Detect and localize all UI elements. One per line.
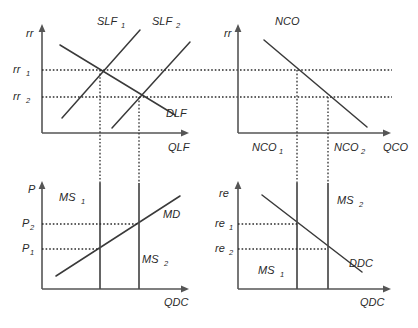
panel1-y-axis-label: rr xyxy=(26,27,35,39)
panel4-x-axis-label: QDC xyxy=(360,296,385,308)
curve-md xyxy=(56,196,180,276)
panel1-rr2-sub: 2 xyxy=(25,96,31,105)
curve-nco xyxy=(264,40,367,127)
curve-label-ms1-p4: MS xyxy=(258,264,275,276)
panel3-x-axis-arrow xyxy=(181,286,189,293)
curve-label-ms1-p3: MS xyxy=(59,191,76,203)
economics-four-panel-figure: rr rr 1 rr 2 SLF 1 SLF 2 DLF QLF rr xyxy=(0,0,418,328)
panel2-y-axis-label: rr xyxy=(224,27,233,39)
panel4-y-axis-arrow xyxy=(235,181,242,189)
panel2-nco2-sub: 2 xyxy=(360,147,366,156)
curve-label-slf1-sub: 1 xyxy=(121,21,125,30)
panel2-nco1-sub: 1 xyxy=(279,147,283,156)
panel4-y-axis-label: re xyxy=(219,187,229,199)
curve-label-ddc: DDC xyxy=(349,257,373,269)
curve-label-slf1: SLF xyxy=(97,15,118,27)
panel2-nco1-label: NCO xyxy=(252,141,277,153)
curve-ddc xyxy=(262,195,362,272)
panel2-nco2-label: NCO xyxy=(334,141,359,153)
panel1-y-axis-arrow xyxy=(39,24,46,32)
curve-label-ms2-p3: MS xyxy=(142,253,159,265)
panel-foreign-exchange-market: re re 1 re 2 MS 1 MS 2 DDC QDC xyxy=(215,181,391,308)
panel3-p2-label: P xyxy=(22,217,30,229)
panel1-rr1-sub: 1 xyxy=(26,69,30,78)
panel3-p1-label: P xyxy=(22,242,30,254)
figure-canvas: rr rr 1 rr 2 SLF 1 SLF 2 DLF QLF rr xyxy=(0,0,418,328)
curve-label-ms1-p4-sub: 1 xyxy=(280,270,284,279)
panel4-x-axis-arrow xyxy=(383,286,391,293)
curve-label-ms2-p4-sub: 2 xyxy=(358,200,364,209)
panel2-x-axis-label: QCO xyxy=(383,141,409,153)
panel3-p2-sub: 2 xyxy=(29,223,35,232)
curve-label-ms2-p4: MS xyxy=(337,194,354,206)
panel1-x-axis-label: QLF xyxy=(168,141,191,153)
panel-net-capital-outflow: rr NCO NCO 1 NCO 2 QCO xyxy=(224,15,409,183)
panel3-y-axis-arrow xyxy=(39,181,46,189)
curve-label-nco: NCO xyxy=(275,15,300,27)
panel4-re2-sub: 2 xyxy=(228,248,234,257)
curve-label-slf2-sub: 2 xyxy=(175,21,181,30)
panel4-re1-label: re xyxy=(215,217,225,229)
panel1-rr2-label: rr xyxy=(13,90,22,102)
curve-label-dlf: DLF xyxy=(166,107,188,119)
curve-label-md: MD xyxy=(163,208,180,220)
panel-domestic-goods-market: P P 2 P 1 MS 1 MS 2 MD QDC xyxy=(22,181,189,308)
panel2-y-axis-arrow xyxy=(235,24,242,32)
panel1-rr1-label: rr xyxy=(13,63,22,75)
panel4-re1-sub: 1 xyxy=(229,223,233,232)
panel1-x-axis-arrow xyxy=(181,130,189,137)
panel4-re2-label: re xyxy=(215,242,225,254)
panel3-p1-sub: 1 xyxy=(30,248,34,257)
panel3-y-axis-label: P xyxy=(28,183,36,195)
curve-slf1 xyxy=(62,30,140,118)
panel-loanable-funds: rr rr 1 rr 2 SLF 1 SLF 2 DLF QLF xyxy=(13,15,392,183)
curve-label-ms2-p3-sub: 2 xyxy=(163,259,169,268)
curve-label-ms1-p3-sub: 1 xyxy=(81,197,85,206)
panel3-x-axis-label: QDC xyxy=(164,296,189,308)
panel2-x-axis-arrow xyxy=(383,130,391,137)
curve-label-slf2: SLF xyxy=(152,15,173,27)
